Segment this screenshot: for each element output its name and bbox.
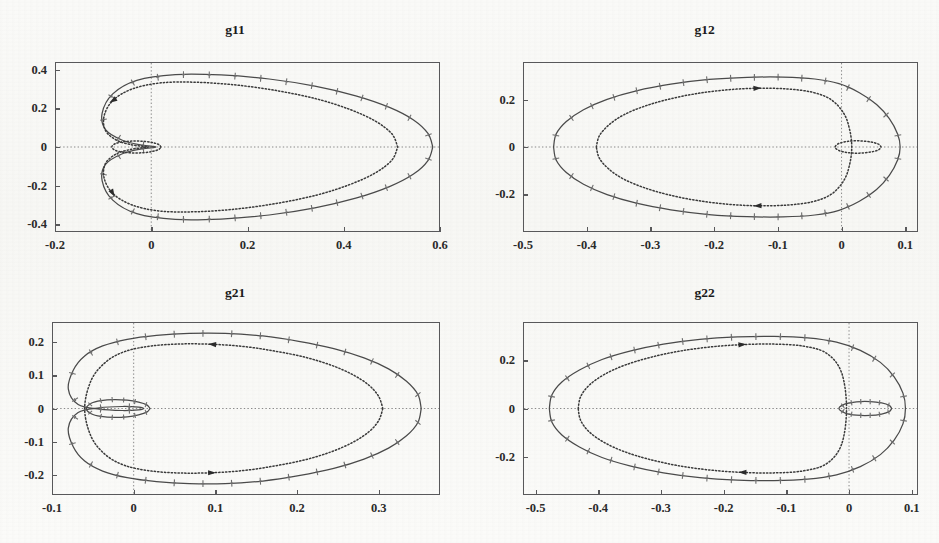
plus-marker [754, 477, 757, 484]
panel-g22: g22 -0.5-0.4-0.3-0.2-0.100.10.20-0.2 [470, 285, 939, 535]
x-tick-label: -0.1 [776, 501, 796, 516]
plus-marker [878, 412, 881, 417]
plus-marker [111, 415, 114, 420]
plus-marker [658, 83, 662, 90]
plus-marker [310, 82, 314, 89]
y-tick-label: 0 [0, 140, 47, 155]
plus-marker [425, 132, 432, 137]
plus-marker [705, 76, 709, 83]
y-tickmark [55, 108, 60, 109]
x-tickmark [344, 227, 345, 232]
plus-marker [878, 400, 881, 405]
x-tick-label: -0.2 [714, 501, 734, 516]
x-tick-label: 0.2 [240, 238, 256, 253]
plus-marker [681, 208, 685, 215]
x-tickmark [215, 490, 216, 495]
plus-marker [779, 333, 782, 340]
x-tick-label: 0.1 [208, 501, 224, 516]
plus-marker [705, 335, 708, 342]
x-tick-label: -0.5 [513, 238, 533, 253]
x-tickmark [379, 490, 380, 495]
y-tick-label: 0.2 [0, 334, 44, 349]
x-tickmark [523, 227, 524, 232]
plus-marker [800, 75, 803, 82]
plus-marker [827, 472, 831, 479]
plus-marker [729, 212, 732, 219]
x-tick-label: 0 [838, 238, 844, 253]
plus-marker [230, 480, 234, 487]
plus-marker [860, 413, 862, 418]
plus-marker [753, 213, 756, 220]
plus-marker [128, 403, 131, 410]
x-tick-label: 0.1 [897, 238, 913, 253]
plus-marker [144, 333, 148, 340]
x-tickmark [248, 227, 249, 232]
plus-marker [230, 330, 234, 337]
x-tickmark [842, 227, 843, 232]
x-tick-label: 0.4 [336, 238, 352, 253]
plus-marker [681, 338, 685, 345]
plus-marker [803, 476, 806, 483]
x-tickmark [650, 227, 651, 232]
plus-marker [182, 71, 185, 78]
plus-marker [315, 341, 319, 348]
plus-marker [656, 468, 660, 475]
x-tick-label: 0.1 [904, 501, 920, 516]
plus-marker [284, 209, 288, 216]
plus-marker [900, 394, 907, 398]
x-tickmark [297, 490, 298, 495]
y-tick-label: 0.4 [0, 62, 47, 77]
x-tickmark [778, 227, 779, 232]
plus-marker [823, 77, 827, 84]
plus-marker [635, 200, 639, 207]
x-tick-label: -0.3 [651, 501, 671, 516]
plus-marker [287, 474, 291, 481]
plus-marker [182, 216, 185, 223]
y-tickmark [523, 147, 528, 148]
y-tickmark [55, 147, 60, 148]
plus-marker [99, 404, 102, 411]
y-tick-label: -0.2 [0, 178, 47, 193]
plus-marker [259, 332, 263, 339]
x-tickmark [587, 227, 588, 232]
x-tick-label: -0.5 [526, 501, 546, 516]
plus-marker [111, 397, 114, 402]
plus-marker [122, 397, 125, 402]
direction-arrow-marker [738, 342, 746, 348]
panel-g11: g11 -0.200.20.40.60.40.20-0.2-0.4 [0, 22, 470, 267]
plus-marker [869, 413, 871, 418]
x-tick-label: -0.1 [42, 501, 62, 516]
plus-marker [284, 78, 288, 85]
plus-marker [850, 411, 853, 417]
plus-marker [850, 400, 853, 406]
plus-marker [681, 472, 685, 479]
x-tick-label: 0 [846, 501, 852, 516]
panel-g21: g21 -0.100.10.20.30.20.10-0.1-0.2 [0, 285, 470, 535]
y-tick-label: 0 [470, 401, 515, 416]
x-tickmark [151, 227, 152, 232]
plus-marker [259, 212, 263, 219]
plot-canvas-g11 [0, 22, 470, 267]
plus-marker [156, 74, 160, 81]
plus-marker [894, 133, 901, 137]
x-tickmark [134, 490, 135, 495]
x-tickmark [849, 490, 850, 495]
plot-canvas-g22 [470, 285, 939, 535]
plus-marker [144, 477, 148, 484]
plus-marker [632, 346, 636, 353]
y-tick-label: 0.2 [470, 353, 515, 368]
plus-marker [823, 209, 827, 216]
x-tickmark [536, 490, 537, 495]
y-tickmark [52, 442, 57, 443]
plus-marker [800, 212, 803, 219]
x-tick-label: -0.2 [704, 238, 724, 253]
y-tickmark [523, 409, 528, 410]
y-tick-label: 0.1 [0, 368, 44, 383]
plus-marker [425, 157, 432, 162]
x-tickmark [786, 490, 787, 495]
plus-marker [777, 74, 780, 81]
plus-marker [900, 419, 907, 423]
x-tickmark [912, 490, 913, 495]
x-tick-label: 0.6 [432, 238, 448, 253]
direction-arrow-marker [753, 203, 761, 208]
